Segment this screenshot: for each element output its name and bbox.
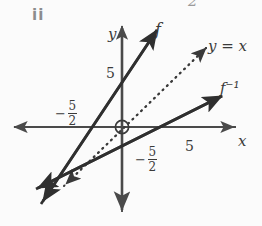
y-axis-tick-5: 5	[106, 66, 115, 80]
y-intercept-label-negative-five-halves: − 5 2	[135, 146, 157, 173]
minus-sign: −	[55, 107, 66, 120]
curve-label-f-inverse: f⁻¹	[220, 81, 239, 96]
coordinate-plane-svg	[0, 0, 262, 226]
fraction-stack: 5 2	[68, 100, 77, 127]
fraction-stack: 5 2	[148, 146, 157, 173]
curve-label-f: f	[155, 22, 161, 38]
x-axis-tick-5: 5	[185, 139, 194, 153]
x-intercept-label-negative-five-halves: − 5 2	[55, 100, 77, 127]
fraction-numerator: 5	[149, 146, 157, 158]
y-axis-label: y	[108, 27, 116, 42]
curve-label-y-equals-x: y = x	[208, 39, 247, 54]
fraction-numerator: 5	[69, 100, 77, 112]
fraction-denominator: 2	[149, 161, 157, 173]
fraction-denominator: 2	[69, 115, 77, 127]
x-axis-label: x	[238, 134, 246, 149]
minus-sign: −	[135, 153, 146, 166]
